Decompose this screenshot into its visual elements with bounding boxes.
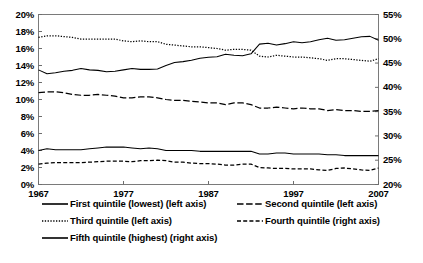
x-axis-tick-label: 1997 xyxy=(269,189,319,199)
right-axis-tick-label: 45% xyxy=(383,58,423,68)
left-axis-tick-label: 14% xyxy=(0,61,34,71)
right-axis-tick-label: 35% xyxy=(383,107,423,117)
x-axis-tick-label: 2007 xyxy=(354,189,404,199)
legend-item-5[interactable]: Fifth quintile (highest) (right axis) xyxy=(42,232,217,243)
right-axis-tick-label: 40% xyxy=(383,82,423,92)
right-axis-tick-label: 30% xyxy=(383,131,423,141)
right-axis-tick-label: 50% xyxy=(383,34,423,44)
series-line-1 xyxy=(39,147,379,156)
series-line-5 xyxy=(39,36,379,73)
legend-item-label: First quintile (lowest) (left axis) xyxy=(70,198,206,209)
legend-item-4[interactable]: Fourth quintile (right axis) xyxy=(237,215,380,226)
legend-item-2[interactable]: Second quintile (left axis) xyxy=(237,198,377,209)
legend-line-swatch-icon xyxy=(237,199,263,209)
x-axis-tick-label: 1977 xyxy=(99,189,149,199)
chart-legend: First quintile (lowest) (left axis)Secon… xyxy=(0,198,423,260)
left-axis-tick-label: 2% xyxy=(0,163,34,173)
legend-item-3[interactable]: Third quintile (left axis) xyxy=(42,215,172,226)
legend-item-1[interactable]: First quintile (lowest) (left axis) xyxy=(42,198,206,209)
legend-item-label: Fifth quintile (highest) (right axis) xyxy=(70,232,217,243)
right-axis-tick-label: 25% xyxy=(383,155,423,165)
legend-line-swatch-icon xyxy=(42,199,68,209)
legend-item-label: Third quintile (left axis) xyxy=(70,215,172,226)
legend-item-label: Second quintile (left axis) xyxy=(265,198,377,209)
right-axis-tick-label: 55% xyxy=(383,10,423,20)
legend-line-swatch-icon xyxy=(237,216,263,226)
plot-frame xyxy=(39,15,379,185)
series-line-4 xyxy=(39,160,379,170)
series-line-2 xyxy=(39,92,379,112)
left-axis-tick-label: 10% xyxy=(0,95,34,105)
left-axis-tick-label: 4% xyxy=(0,146,34,156)
axis-tick-marks xyxy=(39,15,379,185)
left-axis-tick-label: 18% xyxy=(0,27,34,37)
legend-line-swatch-icon xyxy=(42,216,68,226)
series-lines xyxy=(39,36,379,171)
legend-line-swatch-icon xyxy=(42,233,68,243)
left-axis-tick-label: 16% xyxy=(0,44,34,54)
legend-item-label: Fourth quintile (right axis) xyxy=(265,215,380,226)
left-axis-tick-label: 20% xyxy=(0,10,34,20)
x-axis-tick-label: 1987 xyxy=(184,189,234,199)
left-axis-tick-label: 8% xyxy=(0,112,34,122)
left-axis-tick-label: 6% xyxy=(0,129,34,139)
left-axis-tick-label: 12% xyxy=(0,78,34,88)
chart-container: 0%2%4%6%8%10%12%14%16%18%20% 20%25%30%35… xyxy=(0,0,423,263)
x-axis-tick-label: 1967 xyxy=(14,189,64,199)
